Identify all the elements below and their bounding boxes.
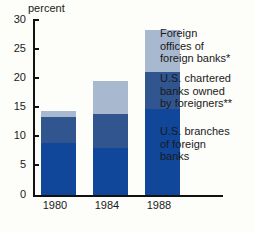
bar-1980 xyxy=(41,111,76,195)
chart-figure: percent 30 25 20 15 10 5 0 1980 1984 198… xyxy=(0,0,255,232)
bar-segment xyxy=(93,114,128,148)
bar-segment xyxy=(93,81,128,114)
legend-label-line: U.S. branches xyxy=(160,125,255,138)
legend-label-line: offices of xyxy=(160,40,255,53)
legend-label-line: banks xyxy=(160,150,255,163)
legend-label-line: banks owned xyxy=(160,85,255,98)
legend-label-line: Foreign xyxy=(160,27,255,40)
x-tick-label: 1980 xyxy=(33,199,77,211)
legend-item-us-chartered: U.S. chartered banks owned by foreigners… xyxy=(160,72,255,110)
legend-label-line: foreign banks* xyxy=(160,52,255,65)
legend-label-line: U.S. chartered xyxy=(160,72,255,85)
bar-1984 xyxy=(93,81,128,195)
bar-segment xyxy=(41,117,76,143)
legend-item-foreign-offices: Foreign offices of foreign banks* xyxy=(160,27,255,65)
x-tick-label: 1984 xyxy=(85,199,129,211)
bar-segment xyxy=(93,148,128,195)
x-tick-label: 1988 xyxy=(137,199,181,211)
legend-item-us-branches: U.S. branches of foreign banks xyxy=(160,125,255,163)
legend-label-line: by foreigners** xyxy=(160,97,255,110)
bar-segment xyxy=(41,143,76,195)
legend-label-line: of foreign xyxy=(160,138,255,151)
